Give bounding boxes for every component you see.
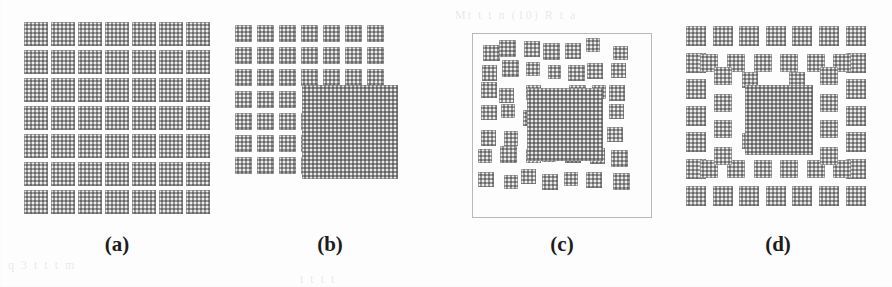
carpet-corner1-r1-c2	[367, 47, 384, 64]
jitter-square-35	[613, 173, 630, 190]
grid-square-r1-c5	[159, 50, 183, 75]
grid-square-r0-c6	[186, 22, 210, 47]
jitter-square-37	[548, 65, 562, 79]
jitter-square-17	[609, 85, 625, 101]
carpet-corner1-r2-c1	[345, 69, 362, 86]
grid-square-r4-c5	[159, 134, 183, 159]
carpet-corner1-r0-c0	[323, 25, 340, 42]
brick-bottom-2	[739, 186, 759, 206]
grid-square-r4-c2	[78, 134, 102, 159]
grid-square-r3-c4	[132, 106, 156, 131]
grid-square-r2-c3	[105, 78, 129, 103]
jitter-square-5	[526, 62, 540, 76]
grid-square-r3-c2	[78, 106, 102, 131]
brick-right-2	[846, 79, 866, 99]
carpet-corner0-r2-c1	[257, 69, 274, 86]
grid-square-r4-c6	[186, 134, 210, 159]
carpet-corner2-r2-c1	[257, 157, 274, 174]
jitter-square-32	[611, 150, 628, 167]
grid-square-r2-c0	[24, 78, 48, 103]
jitter-square-14	[611, 63, 626, 78]
brick-in-bottom-2	[754, 160, 772, 178]
jitter-square-47	[609, 104, 624, 119]
panel-d-caption: (d)	[728, 232, 828, 257]
panel-a-caption: (a)	[67, 232, 167, 257]
grid-square-r1-c0	[24, 50, 48, 75]
ghost-text-1: q 3 t t t m	[8, 258, 76, 273]
jitter-square-29	[607, 127, 622, 142]
brick-top-5	[819, 26, 839, 46]
brick-in-left-1	[714, 94, 732, 112]
brick-top-1	[713, 26, 733, 46]
brick-top-4	[792, 26, 812, 46]
carpet-corner1-r2-c0	[323, 69, 340, 86]
grid-square-r4-c4	[132, 134, 156, 159]
brick-in-right-0	[820, 67, 838, 85]
carpet-edge-left-2	[279, 91, 296, 108]
grid-square-r1-c3	[105, 50, 129, 75]
brick-bottom-6	[846, 186, 866, 206]
grid-square-r3-c3	[105, 106, 129, 131]
panel-a	[22, 20, 212, 216]
jitter-square-18	[481, 130, 497, 146]
grid-square-r1-c6	[186, 50, 210, 75]
grid-square-r2-c2	[78, 78, 102, 103]
brick-bottom-3	[766, 186, 786, 206]
carpet-edge-left-1	[257, 91, 274, 108]
carpet-corner1-r1-c0	[323, 47, 340, 64]
grid-square-r0-c1	[51, 22, 75, 47]
brick-in-top-3	[780, 54, 798, 72]
jitter-square-24	[478, 172, 493, 187]
carpet-corner0-r0-c0	[235, 25, 252, 42]
panel-c	[472, 33, 652, 218]
panel-c-caption: (c)	[512, 232, 612, 257]
grid-square-r5-c0	[24, 162, 48, 187]
carpet-corner2-r0-c2	[279, 113, 296, 130]
ghost-text-2: t t t t	[300, 272, 336, 287]
carpet-corner1-r0-c2	[367, 25, 384, 42]
carpet-corner0-r1-c0	[235, 47, 252, 64]
jitter-square-0	[483, 45, 499, 61]
brick-top-2	[739, 26, 759, 46]
carpet-corner0-r0-c2	[279, 25, 296, 42]
jitter-square-25	[504, 175, 518, 189]
jitter-center-square	[527, 88, 603, 161]
grid-square-r6-c6	[186, 190, 210, 215]
grid-square-r2-c5	[159, 78, 183, 103]
grid-square-r6-c2	[78, 190, 102, 215]
jitter-square-2	[524, 41, 540, 57]
jitter-square-13	[587, 63, 603, 79]
brick-in-right-1	[820, 94, 838, 112]
carpet-corner2-r1-c1	[257, 135, 274, 152]
carpet-center-square	[302, 85, 398, 179]
jitter-square-21	[478, 149, 492, 163]
carpet-corner0-r1-c1	[257, 47, 274, 64]
carpet-corner1-r2-c2	[367, 69, 384, 86]
jitter-square-34	[586, 172, 602, 188]
figure-container: Mt t t n (10) R t a q 3 t t t m t t t t …	[0, 0, 892, 287]
jitter-square-4	[502, 60, 519, 77]
jitter-square-36	[543, 43, 560, 60]
grid-square-r3-c0	[24, 106, 48, 131]
grid-square-r2-c4	[132, 78, 156, 103]
carpet-corner2-r1-c0	[235, 135, 252, 152]
jitter-square-3	[482, 65, 498, 81]
carpet-corner2-r2-c0	[235, 157, 252, 174]
grid-square-r2-c6	[186, 78, 210, 103]
grid-square-r6-c5	[159, 190, 183, 215]
ghost-text-0: Mt t t n (10) R t a	[455, 8, 577, 23]
jitter-square-26	[521, 169, 536, 184]
carpet-corner2-r0-c1	[257, 113, 274, 130]
grid-square-r6-c1	[51, 190, 75, 215]
grid-square-r0-c2	[78, 22, 102, 47]
jitter-square-1	[499, 40, 516, 57]
brick-in-left-0	[714, 67, 732, 85]
carpet-corner0-r2-c0	[235, 69, 252, 86]
brick-in-right-3	[820, 147, 838, 165]
grid-square-r3-c5	[159, 106, 183, 131]
jitter-square-12	[568, 65, 585, 82]
brick-top-3	[766, 26, 786, 46]
jitter-square-43	[501, 104, 516, 119]
brick-left-4	[686, 132, 706, 152]
jitter-square-6	[481, 82, 497, 98]
